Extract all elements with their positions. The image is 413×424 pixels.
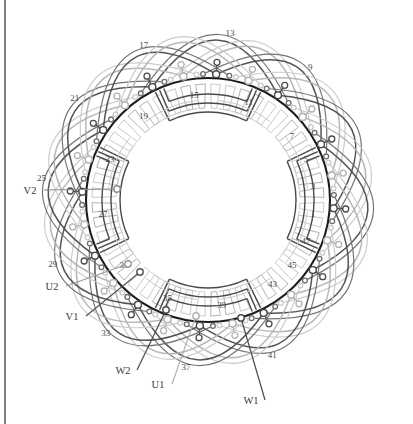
terminal-label: V1 xyxy=(66,311,79,322)
stator-winding-svg: 1357911131517192123252729313335373941434… xyxy=(0,0,413,424)
terminal-label: V2 xyxy=(24,185,37,196)
terminal-leader-line xyxy=(172,316,196,384)
terminal-ring xyxy=(137,269,143,275)
terminal-ring xyxy=(114,186,120,192)
terminal-ring xyxy=(125,261,131,267)
slot-number-label: 13 xyxy=(225,28,235,38)
slot-number-label: 27 xyxy=(98,209,108,219)
diagram-canvas: 1357911131517192123252729313335373941434… xyxy=(0,0,413,424)
slot-number-labels: 1357911131517192123252729313335373941434… xyxy=(37,28,316,371)
slot-number-label: 29 xyxy=(48,259,58,269)
terminal-ring xyxy=(238,315,244,321)
slot-wedge-group xyxy=(92,84,324,316)
terminal-label: W1 xyxy=(243,395,258,406)
slot-number-label: 45 xyxy=(288,260,298,270)
terminal-label: W2 xyxy=(115,365,130,376)
slot-number-label: 19 xyxy=(139,111,149,121)
terminal-ring xyxy=(163,307,169,313)
terminal-label: U1 xyxy=(152,379,165,390)
slot-number-label: 7 xyxy=(290,131,295,141)
terminal-ring xyxy=(193,313,199,319)
slot-number-label: 15 xyxy=(190,90,200,100)
slot-number-label: 9 xyxy=(308,62,313,72)
slot-number-label: 3 xyxy=(311,181,316,191)
outer-end-winding-group xyxy=(42,34,373,365)
slot-number-label: 1 xyxy=(311,209,316,219)
stator-bore-circle xyxy=(86,78,330,322)
terminal-label: U2 xyxy=(46,281,59,292)
slot-number-label: 33 xyxy=(101,328,111,338)
slot-number-label: 25 xyxy=(37,173,47,183)
slot-number-label: 17 xyxy=(139,40,149,50)
slot-number-label: 37 xyxy=(182,362,192,372)
slot-number-label: 39 xyxy=(217,300,227,310)
slot-number-label: 41 xyxy=(268,350,277,360)
slot-number-label: 43 xyxy=(268,279,278,289)
inner-end-turn-group xyxy=(96,88,319,311)
slot-number-label: 11 xyxy=(244,97,253,107)
terminal-ring-group xyxy=(67,59,348,340)
slot-number-label: 5 xyxy=(304,154,309,164)
slot-number-label: 47 xyxy=(301,236,311,246)
slot-number-label: 35 xyxy=(163,293,173,303)
slot-number-label: 21 xyxy=(70,93,79,103)
slot-number-label: 23 xyxy=(106,154,116,164)
